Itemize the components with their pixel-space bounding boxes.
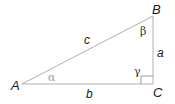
right-triangle-diagram: A B C a b c α β γ	[0, 0, 175, 104]
vertex-a-label: A	[10, 78, 20, 93]
side-c-label: c	[84, 33, 90, 47]
angle-gamma-label: γ	[134, 65, 141, 78]
angle-alpha-label: α	[48, 71, 56, 84]
side-b-label: b	[86, 87, 93, 101]
angle-beta-label: β	[140, 25, 146, 38]
vertex-c-label: C	[153, 85, 163, 100]
right-angle-marker	[141, 76, 153, 84]
vertex-b-label: B	[152, 2, 161, 17]
side-a-label: a	[157, 46, 164, 60]
